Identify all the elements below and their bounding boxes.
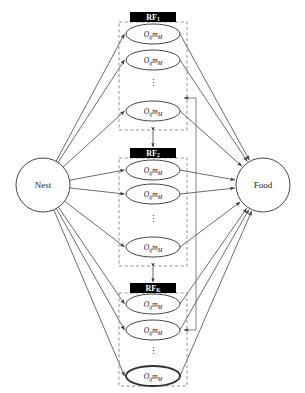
edge-rf2-1-to-food bbox=[180, 170, 235, 180]
feedback-lower bbox=[184, 193, 196, 330]
edge-rfk-3-to-food bbox=[180, 211, 252, 376]
edge-nest-to-rf1-2 bbox=[58, 60, 125, 163]
source-node-nest-label: Nest bbox=[35, 180, 52, 190]
group-ellipsis-rfk: ⋮ bbox=[149, 346, 158, 356]
feedback-upper bbox=[184, 98, 196, 193]
edge-rf1-2-to-food bbox=[180, 60, 247, 161]
edge-nest-to-rfk-2 bbox=[56, 208, 124, 330]
edge-nest-to-rf1-3 bbox=[63, 111, 124, 167]
edge-nest-to-rf2-2 bbox=[70, 188, 125, 194]
diagram-canvas: OijmMOijmMOijmM⋮OijmMOijmMOijmM⋮OijmMOij… bbox=[0, 0, 305, 393]
group-ellipsis-rf1: ⋮ bbox=[149, 78, 158, 88]
edge-rfk-2-to-food bbox=[180, 210, 249, 330]
edges-to-food bbox=[180, 34, 252, 376]
group-nodes: OijmMOijmMOijmM⋮OijmMOijmMOijmM⋮OijmMOij… bbox=[126, 24, 180, 386]
edge-rf1-1-to-food bbox=[180, 34, 249, 160]
edge-rfk-1-to-food bbox=[180, 208, 247, 304]
edges-from-nest bbox=[54, 34, 125, 376]
target-node-food-label: Food bbox=[254, 180, 273, 190]
edge-nest-to-rf2-1 bbox=[70, 170, 125, 180]
edge-rf2-2-to-food bbox=[180, 188, 235, 194]
diagram-svg: OijmMOijmMOijmM⋮OijmMOijmMOijmM⋮OijmMOij… bbox=[0, 0, 305, 393]
group-ellipsis-rf2: ⋮ bbox=[149, 214, 158, 224]
edge-nest-to-rfk-3 bbox=[54, 210, 125, 376]
edge-nest-to-rf2-3 bbox=[65, 201, 125, 247]
